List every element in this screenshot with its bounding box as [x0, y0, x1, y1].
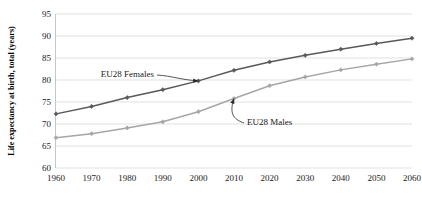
x-tick-label: 1960	[47, 173, 66, 183]
x-tick-label: 2060	[403, 173, 422, 183]
x-tick-label: 2040	[332, 173, 351, 183]
x-tick-label: 2020	[261, 173, 280, 183]
x-tick-label: 2010	[225, 173, 244, 183]
y-axis-title: Life expectancy at birth, total (years)	[7, 26, 16, 156]
y-tick-label: 95	[42, 9, 52, 19]
x-tick-label: 1990	[154, 173, 173, 183]
annotation-label: EU28 Females	[101, 69, 155, 79]
x-tick-label: 2030	[296, 173, 315, 183]
annotation-label: EU28 Males	[247, 117, 293, 127]
y-tick-label: 70	[42, 119, 52, 129]
x-tick-label: 1980	[118, 173, 137, 183]
y-tick-label: 75	[42, 97, 52, 107]
y-tick-label: 85	[42, 53, 52, 63]
x-tick-label: 1970	[83, 173, 102, 183]
x-tick-label: 2050	[367, 173, 386, 183]
line-chart: 6065707580859095 19601970198019902000201…	[0, 0, 422, 202]
y-tick-label: 90	[42, 31, 52, 41]
y-tick-label: 60	[42, 163, 52, 173]
y-tick-label: 80	[42, 75, 52, 85]
x-tick-label: 2000	[189, 173, 208, 183]
chart-container: 6065707580859095 19601970198019902000201…	[0, 0, 422, 202]
y-tick-label: 65	[42, 141, 52, 151]
chart-background	[0, 0, 422, 202]
